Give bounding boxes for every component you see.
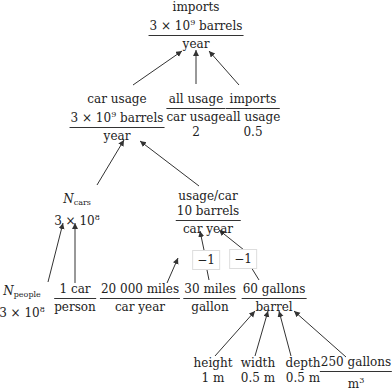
imports-num-base: 3 × 10 [150, 19, 191, 33]
arrow-gallons-m3-to-barrel [294, 311, 346, 357]
exponent-tag-mpg: −1 [192, 250, 220, 270]
arrow-miles-to-usage [167, 258, 178, 283]
n-cars-value: 3 × 108 [54, 210, 100, 229]
gallons-m3-den-exp: 3 [359, 376, 364, 385]
node-n-cars: Ncars 3 × 108 [54, 192, 100, 229]
node-height: height 1 m [194, 356, 233, 386]
n-people-value-base: 3 × 10 [0, 306, 40, 320]
node-car-usage: car usage 3 × 109 barrels year [70, 92, 165, 144]
n-cars-value-exp: 8 [95, 213, 100, 222]
node-width: width 0.5 m [241, 356, 275, 386]
arrow-height-to-barrel [215, 311, 255, 356]
width-label: width [241, 356, 275, 371]
arrow-depth-to-barrel [279, 311, 291, 356]
n-people-subscript: people [14, 290, 41, 299]
arrow-usage-per-car-to-car-usage [140, 141, 199, 186]
node-gallons-per-barrel: 60 gallons barrel [242, 282, 307, 315]
n-cars-symbol: Ncars [54, 192, 100, 210]
mpg-numerator: 30 miles [183, 282, 236, 299]
node-imports-ratio: imports all usage 0.5 [226, 92, 280, 140]
arrow-ncars-to-car-usage [97, 140, 124, 185]
imports-label: imports [149, 0, 244, 15]
car-usage-num-base: 3 × 10 [71, 111, 112, 125]
depth-value: 0.5 m [285, 371, 320, 386]
gpb-denominator: barrel [242, 299, 307, 315]
node-miles-per-gallon: 30 miles gallon [183, 282, 236, 315]
arrow-imports-ratio-to-imports [209, 51, 239, 85]
node-all-usage-ratio: all usage car usage 2 [166, 92, 225, 140]
node-depth: depth 0.5 m [285, 356, 320, 386]
gpb-numerator: 60 gallons [242, 282, 307, 299]
imports-ratio-denominator: all usage [226, 109, 280, 125]
car-usage-denominator: year [70, 128, 165, 144]
arrow-car-usage-to-imports [133, 51, 182, 85]
car-usage-num-unit: barrels [116, 111, 163, 125]
arrow-width-to-barrel [255, 311, 268, 356]
gallons-m3-numerator: 250 gallons [320, 355, 392, 372]
imports-numerator: 3 × 109 barrels [149, 15, 244, 36]
arrow-npeople-to-ncars [48, 223, 63, 282]
height-value: 1 m [194, 371, 233, 386]
miles-per-car-year-numerator: 20 000 miles [100, 282, 180, 299]
n-people-value-exp: 8 [40, 305, 45, 314]
connector-mpg-box [207, 270, 209, 280]
car-usage-numerator: 3 × 109 barrels [70, 107, 165, 128]
n-cars-value-base: 3 × 10 [54, 214, 95, 228]
height-label: height [194, 356, 233, 371]
usage-per-car-label: usage/car [176, 189, 241, 204]
n-cars-N: N [63, 192, 74, 206]
all-usage-denominator: car usage [166, 109, 225, 125]
node-cars-per-person: 1 car person [54, 282, 96, 315]
depth-label: depth [285, 356, 320, 371]
usage-per-car-numerator: 10 barrels [176, 204, 241, 221]
n-people-symbol: Npeople [0, 284, 45, 302]
gallons-m3-den-base: m [348, 377, 359, 391]
cars-per-person-numerator: 1 car [54, 282, 96, 299]
imports-num-unit: barrels [195, 19, 242, 33]
cars-per-person-denominator: person [54, 299, 96, 315]
node-n-people: Npeople 3 × 108 [0, 284, 45, 321]
n-people-N: N [3, 284, 14, 298]
imports-ratio-numerator: imports [226, 92, 280, 109]
node-imports: imports 3 × 109 barrels year [149, 0, 244, 52]
imports-ratio-value: 0.5 [226, 125, 280, 140]
mpg-denominator: gallon [183, 299, 236, 315]
imports-denominator: year [149, 36, 244, 52]
node-gallons-per-m3: 250 gallons m3 [320, 355, 392, 392]
miles-per-car-year-denominator: car year [100, 299, 180, 315]
all-usage-numerator: all usage [166, 92, 225, 109]
n-people-value: 3 × 108 [0, 302, 45, 321]
exponent-tag-gpb: −1 [229, 249, 257, 269]
gallons-m3-denominator: m3 [320, 372, 392, 392]
width-value: 0.5 m [241, 371, 275, 386]
all-usage-value: 2 [166, 125, 225, 140]
usage-per-car-denominator: car year [176, 221, 241, 237]
car-usage-label: car usage [70, 92, 165, 107]
node-usage-per-car: usage/car 10 barrels car year [176, 189, 241, 237]
node-miles-per-car-year: 20 000 miles car year [100, 282, 180, 315]
n-cars-subscript: cars [74, 198, 91, 207]
